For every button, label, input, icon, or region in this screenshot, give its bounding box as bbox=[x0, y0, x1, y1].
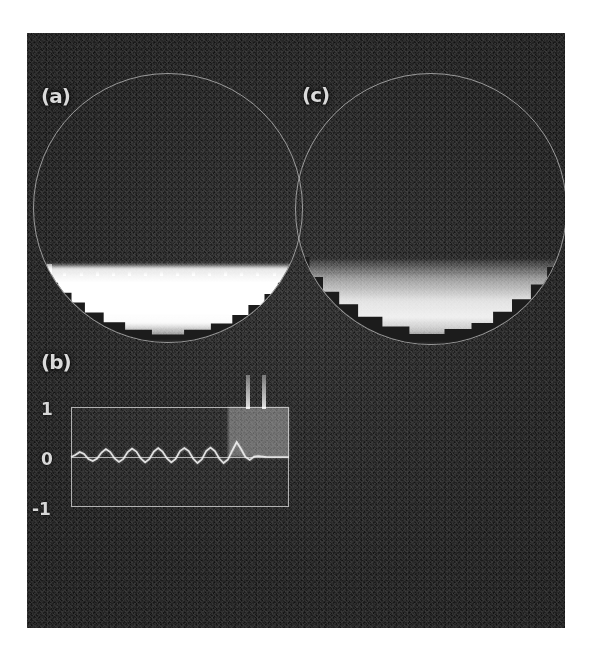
panel-label-b: (b) bbox=[41, 350, 71, 374]
panel-a-interface-spike bbox=[96, 271, 99, 276]
panel-a-interface-spike bbox=[160, 271, 163, 276]
panel-a-interface-spike bbox=[289, 264, 294, 276]
panel-a-interface-spike bbox=[224, 271, 227, 276]
inset-ytick-0: 0 bbox=[41, 449, 53, 469]
panel-a-interface-spike bbox=[240, 272, 243, 276]
circle-panel-c bbox=[295, 73, 565, 345]
panel-a-interface-spike bbox=[144, 272, 147, 276]
circle-panel-a bbox=[33, 73, 303, 343]
inset-ytick-1: 1 bbox=[41, 399, 53, 419]
inset-plot-b bbox=[71, 407, 289, 507]
inset-vertical-spike bbox=[262, 375, 266, 409]
inset-vertical-spike bbox=[246, 375, 250, 409]
panel-a-interface-spike bbox=[273, 272, 276, 276]
panel-a-interface-spike bbox=[192, 271, 195, 276]
panel-a-interface-spike bbox=[112, 272, 115, 276]
figure-root: (a) (c) (b) 1 0 -1 bbox=[0, 0, 592, 648]
inset-ytick-minus1: -1 bbox=[32, 499, 51, 519]
panel-a-interface-spike bbox=[176, 272, 179, 276]
panel-a-interface-spike bbox=[256, 272, 259, 276]
panel-a-interface-spike bbox=[47, 264, 52, 276]
panel-label-c: (c) bbox=[302, 83, 329, 107]
panel-a-interface-spike bbox=[80, 272, 83, 276]
inset-wave-svg bbox=[71, 407, 289, 507]
panel-a-interface-spike bbox=[208, 272, 211, 276]
panel-a-brightness-fill bbox=[34, 74, 302, 342]
panel-label-a: (a) bbox=[41, 84, 70, 108]
panel-a-interface-spike bbox=[128, 271, 131, 276]
inset-wave-path bbox=[71, 442, 289, 463]
figure-panel: (a) (c) (b) 1 0 -1 bbox=[27, 33, 565, 628]
panel-a-interface-spike bbox=[63, 272, 66, 276]
panel-a-spike-row bbox=[34, 258, 302, 276]
